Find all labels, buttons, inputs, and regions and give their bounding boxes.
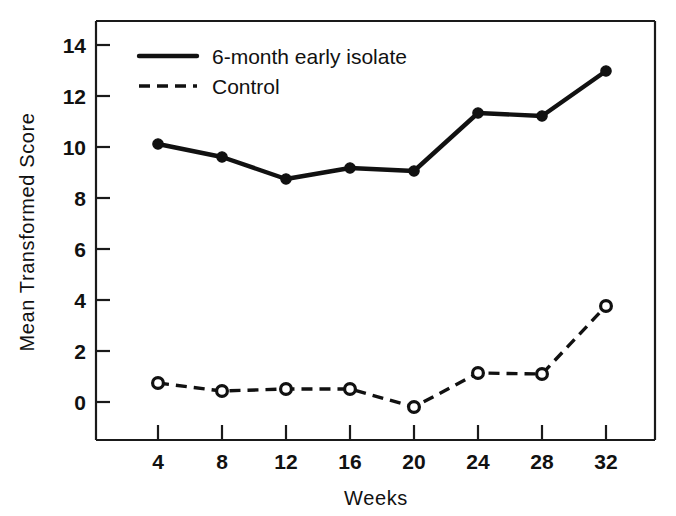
chart-figure: 14 12 10 8 6 4 2 0 4 8 12 16 20 24 [0, 0, 676, 516]
x-tick-label: 24 [466, 450, 490, 473]
x-axis-title: Weeks [344, 487, 408, 509]
data-point [153, 139, 163, 149]
data-point [473, 108, 483, 118]
x-tick-label: 20 [402, 450, 425, 473]
chart-background [0, 0, 676, 516]
data-point [281, 384, 292, 395]
data-point [153, 378, 164, 389]
data-point [601, 66, 611, 76]
data-point [345, 163, 355, 173]
data-point [537, 369, 548, 380]
data-point [409, 166, 419, 176]
data-point [345, 384, 356, 395]
y-tick-label: 4 [74, 289, 86, 312]
data-point [537, 111, 547, 121]
x-tick-label: 16 [338, 450, 361, 473]
y-axis-title: Mean Transformed Score [16, 113, 38, 352]
data-point [281, 174, 291, 184]
x-tick-label: 32 [594, 450, 617, 473]
line-chart-canvas: 14 12 10 8 6 4 2 0 4 8 12 16 20 24 [0, 0, 676, 516]
y-tick-label: 10 [63, 136, 86, 159]
x-tick-label: 28 [530, 450, 554, 473]
y-tick-label: 2 [74, 340, 86, 363]
y-tick-label: 12 [63, 85, 86, 108]
data-point [473, 368, 484, 379]
y-tick-label: 6 [74, 238, 86, 261]
y-tick-label: 14 [63, 34, 87, 57]
data-point [217, 386, 228, 397]
x-tick-label: 12 [274, 450, 297, 473]
data-point [409, 402, 420, 413]
x-tick-label: 4 [152, 450, 164, 473]
y-tick-label: 0 [74, 391, 86, 414]
legend-label: 6-month early isolate [212, 45, 407, 68]
x-tick-label: 8 [216, 450, 228, 473]
legend-label: Control [212, 75, 280, 98]
data-point [601, 301, 612, 312]
data-point [217, 152, 227, 162]
y-tick-label: 8 [74, 187, 86, 210]
